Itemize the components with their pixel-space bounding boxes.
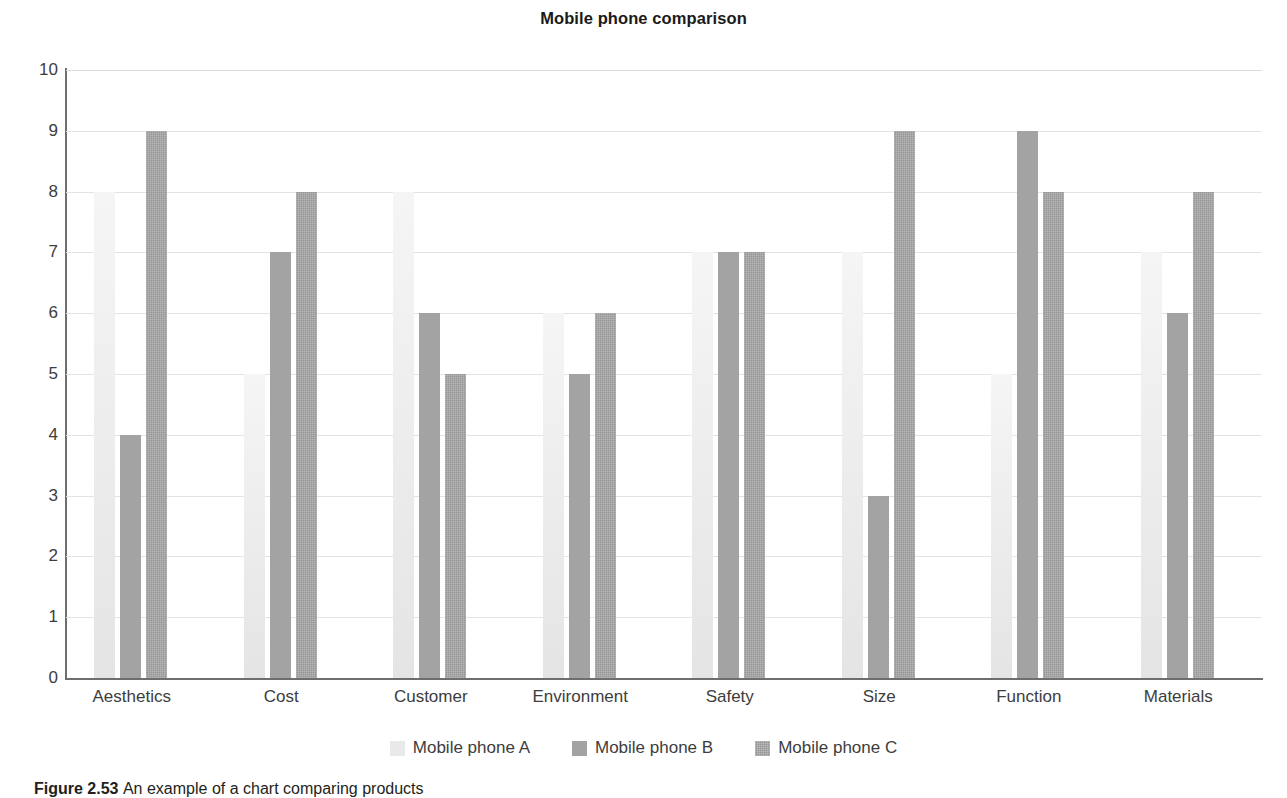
x-axis-category-label: Cost [264, 687, 299, 707]
y-axis-tick-label: 5 [12, 364, 58, 384]
y-axis-tick-label: 2 [12, 546, 58, 566]
bar [1043, 192, 1064, 678]
x-axis-category-label: Size [863, 687, 896, 707]
bar-group [814, 70, 964, 678]
legend-swatch-icon [572, 741, 587, 756]
chart-figure: Mobile phone comparison 109876543210 Aes… [0, 0, 1287, 798]
bar [1017, 131, 1038, 678]
x-axis-category-label: Customer [394, 687, 468, 707]
bar [718, 252, 739, 678]
x-axis-category-label: Safety [706, 687, 754, 707]
bar [120, 435, 141, 678]
bar [393, 192, 414, 678]
figure-caption: Figure 2.53 An example of a chart compar… [34, 780, 424, 798]
y-axis-tick-label: 6 [12, 303, 58, 323]
plot-area [66, 70, 1262, 678]
bar [991, 374, 1012, 678]
y-axis-tick-label: 1 [12, 607, 58, 627]
bar [94, 192, 115, 678]
legend-item: Mobile phone B [572, 738, 713, 758]
bar [569, 374, 590, 678]
bar [894, 131, 915, 678]
bar [842, 252, 863, 678]
bar-group [66, 70, 216, 678]
y-axis-tick-label: 9 [12, 121, 58, 141]
bar [1193, 192, 1214, 678]
legend-swatch-icon [755, 741, 770, 756]
chart-title: Mobile phone comparison [0, 9, 1287, 28]
x-axis-category-label: Aesthetics [93, 687, 171, 707]
x-axis-category-labels: AestheticsCostCustomerEnvironmentSafetyS… [66, 687, 1262, 717]
x-axis-category-label: Materials [1144, 687, 1213, 707]
bar [543, 313, 564, 678]
bar [419, 313, 440, 678]
x-axis-category-label: Function [996, 687, 1061, 707]
bar [692, 252, 713, 678]
bar [244, 374, 265, 678]
legend-label: Mobile phone B [595, 738, 713, 758]
bar-group [1113, 70, 1263, 678]
chart-legend: Mobile phone AMobile phone BMobile phone… [0, 738, 1287, 758]
x-axis-category-label: Environment [533, 687, 628, 707]
y-axis-tick-label: 0 [12, 668, 58, 688]
legend-item: Mobile phone C [755, 738, 897, 758]
caption-text: An example of a chart comparing products [123, 780, 424, 797]
legend-label: Mobile phone C [778, 738, 897, 758]
bar [1167, 313, 1188, 678]
bar [296, 192, 317, 678]
bar [1141, 252, 1162, 678]
bar [146, 131, 167, 678]
bar [744, 252, 765, 678]
bar-group [216, 70, 366, 678]
caption-label: Figure 2.53 [34, 780, 118, 797]
bar-group [664, 70, 814, 678]
x-axis-line [65, 678, 1263, 680]
legend-label: Mobile phone A [413, 738, 530, 758]
bar-group [963, 70, 1113, 678]
y-axis-tick-label: 7 [12, 242, 58, 262]
y-axis-tick-label: 3 [12, 486, 58, 506]
bar [868, 496, 889, 678]
y-axis-tick-label: 8 [12, 182, 58, 202]
bar [595, 313, 616, 678]
legend-item: Mobile phone A [390, 738, 530, 758]
bar-group [365, 70, 515, 678]
y-axis-tick-label: 4 [12, 425, 58, 445]
y-axis-tick-labels: 109876543210 [0, 0, 58, 798]
legend-swatch-icon [390, 741, 405, 756]
bar-group [515, 70, 665, 678]
bar [270, 252, 291, 678]
y-axis-tick-label: 10 [12, 60, 58, 80]
bar [445, 374, 466, 678]
